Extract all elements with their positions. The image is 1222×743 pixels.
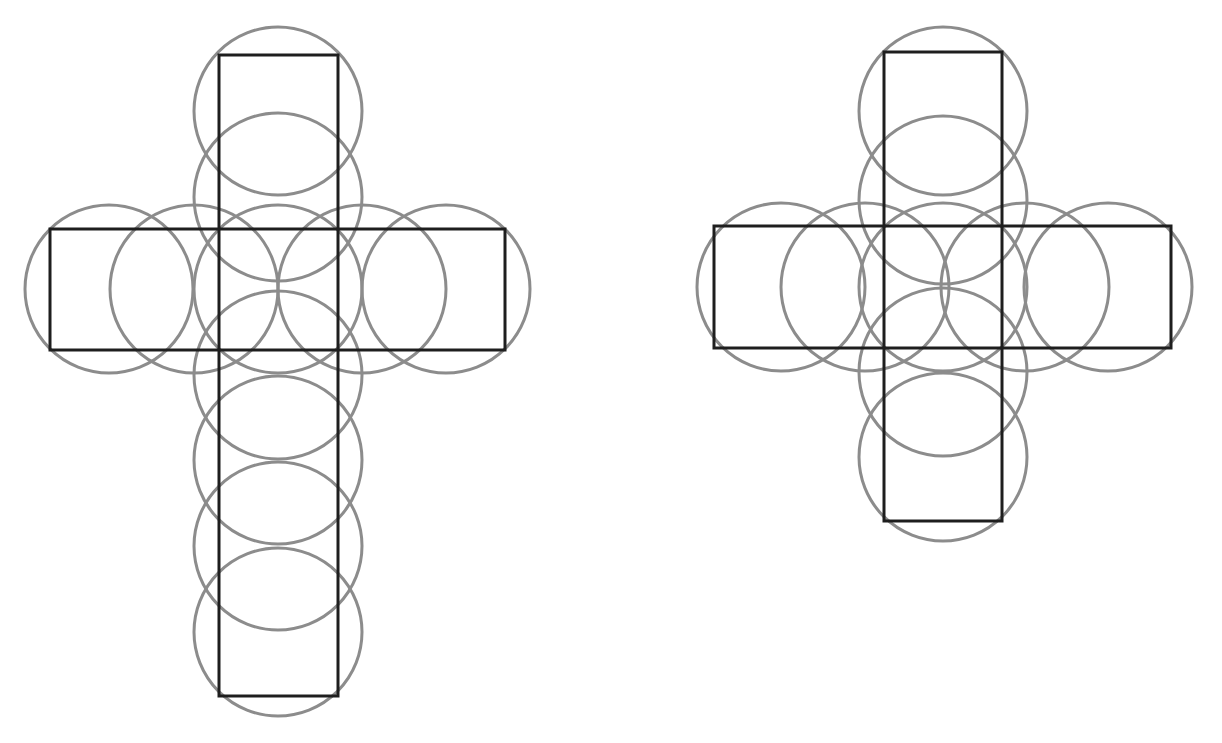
diagram-canvas xyxy=(0,0,1222,743)
right-cross-net xyxy=(697,27,1192,541)
left-cross-net xyxy=(25,27,530,716)
